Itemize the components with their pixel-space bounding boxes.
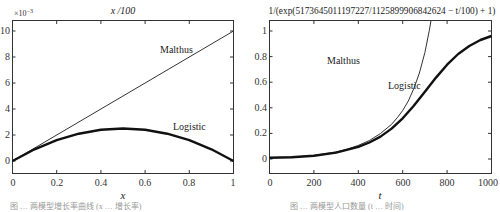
left-ytick-1: 2 (5, 129, 10, 140)
left-ytick-0: 0 (5, 155, 10, 166)
left-xtick-2: 0.4 (95, 177, 108, 188)
left-ytick-4: 8 (5, 51, 10, 62)
right-ytick-2: 0.4 (255, 102, 268, 113)
right-xtick-1: 200 (307, 177, 322, 188)
right-ytick-5: 1 (262, 25, 267, 36)
right-xtick-0: 0 (268, 177, 273, 188)
left-xtick-1: 0.2 (51, 177, 64, 188)
left-ytick-5: 10 (0, 25, 10, 36)
left-logistic-label: Logistic (173, 121, 206, 132)
left-chart-title: x /100 (110, 5, 136, 16)
left-malthus-label: Malthus (160, 44, 193, 55)
left-xtick-0: 0 (11, 177, 16, 188)
right-plot-frame (270, 21, 492, 174)
figure-canvas: 0 0.2 0.4 0.6 0.8 1 0 2 4 6 8 10 ×10−3 x… (0, 0, 500, 212)
left-chart: 0 0.2 0.4 0.6 0.8 1 0 2 4 6 8 10 ×10−3 x… (0, 5, 236, 201)
left-logistic-curve (13, 129, 234, 162)
right-xtick-3: 600 (396, 177, 411, 188)
right-logistic-label: Logistic (388, 80, 421, 91)
left-xtick-5: 1 (231, 177, 236, 188)
right-x-ticks (270, 21, 492, 173)
left-ytick-3: 6 (5, 77, 10, 88)
right-ytick-0: 0 (262, 153, 267, 164)
left-xtick-3: 0.6 (139, 177, 152, 188)
right-chart-title: 1/(exp(5173645011197227/1125899906842624… (269, 6, 496, 17)
left-plot-frame (13, 21, 234, 174)
left-malthus-curve (13, 31, 234, 161)
right-y-ticks (270, 31, 492, 159)
left-ytick-2: 4 (5, 103, 10, 114)
right-ytick-4: 0.8 (255, 51, 268, 62)
left-figure-caption: 图 … 两模型增长率曲线 (x … 增长率) (10, 200, 235, 211)
right-figure-caption: 图 … 两模型人口数量 (t … 时间) (290, 200, 495, 211)
right-ytick-3: 0.6 (255, 76, 268, 87)
right-chart: 0 200 400 600 800 1000 0 0.2 0.4 0.6 0.8… (255, 6, 499, 201)
right-xtick-5: 1000 (478, 177, 498, 188)
left-exponent-label: ×10−3 (14, 8, 33, 18)
right-xtick-4: 800 (440, 177, 455, 188)
right-xtick-2: 400 (351, 177, 366, 188)
left-x-ticks (13, 21, 234, 173)
left-xtick-4: 0.8 (183, 177, 196, 188)
right-malthus-label: Malthus (327, 55, 360, 66)
right-ytick-1: 0.2 (255, 127, 268, 138)
right-logistic-curve (270, 36, 492, 158)
